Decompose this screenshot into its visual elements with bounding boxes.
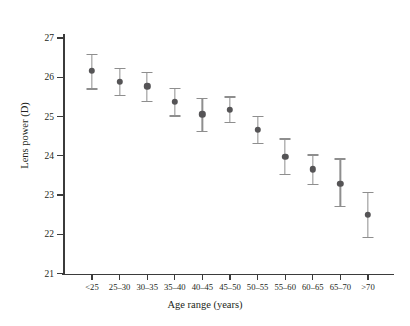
- x-axis-tick: [340, 275, 341, 280]
- error-bar-cap-upper: [252, 116, 263, 117]
- y-axis-tick: [57, 155, 63, 156]
- x-axis-tick-label: 25–30: [109, 282, 130, 292]
- x-axis-tick: [119, 275, 120, 280]
- error-bar-cap-lower: [252, 143, 263, 144]
- x-axis-tick-label: 45–50: [219, 282, 240, 292]
- data-point-marker: [172, 98, 178, 104]
- error-bar-cap-upper: [363, 192, 374, 193]
- y-axis-tick-label: 23: [34, 190, 54, 200]
- error-bar-cap-lower: [197, 131, 208, 132]
- error-bar-cap-lower: [225, 122, 236, 123]
- error-bar-cap-upper: [142, 72, 153, 73]
- error-bar-cap-lower: [307, 184, 318, 185]
- data-point-marker: [282, 153, 288, 159]
- error-bar-cap-lower: [169, 115, 180, 116]
- y-axis-tick: [57, 116, 63, 117]
- error-bar-cap-upper: [87, 54, 98, 55]
- x-axis-tick: [285, 275, 286, 280]
- y-axis-tick-label: 21: [34, 269, 54, 279]
- x-axis-tick: [91, 275, 92, 280]
- y-axis-line: [63, 34, 65, 275]
- error-bar-cap-upper: [307, 154, 318, 155]
- x-axis-tick-label: 65–70: [330, 282, 351, 292]
- y-axis-tick: [57, 234, 63, 235]
- x-axis-tick-label: 60–65: [302, 282, 323, 292]
- data-point-marker: [365, 211, 371, 217]
- data-point-marker: [199, 111, 205, 117]
- x-axis-tick-label: 40–45: [192, 282, 213, 292]
- data-point-marker: [89, 67, 95, 73]
- y-axis-tick-label: 25: [34, 112, 54, 122]
- y-axis-tick-label: 24: [34, 151, 54, 161]
- y-axis-tick: [57, 273, 63, 274]
- x-axis-tick-label: 55–60: [274, 282, 295, 292]
- x-axis-tick-label: 35–40: [164, 282, 185, 292]
- y-axis-tick: [57, 194, 63, 195]
- error-bar-cap-upper: [197, 98, 208, 99]
- error-bar-cap-lower: [363, 237, 374, 238]
- x-axis-tick-label: <25: [85, 282, 98, 292]
- x-axis-tick: [174, 275, 175, 280]
- error-bar-cap-upper: [114, 68, 125, 69]
- x-axis-tick: [367, 275, 368, 280]
- error-bar-cap-lower: [87, 88, 98, 89]
- data-point-marker: [254, 127, 260, 133]
- data-point-marker: [310, 166, 316, 172]
- lens-power-scatter-figure: 21222324252627 <2525–3030–3535–4040–4545…: [0, 0, 410, 326]
- x-axis-tick: [257, 275, 258, 280]
- x-axis-tick: [312, 275, 313, 280]
- error-bar-cap-lower: [335, 206, 346, 207]
- x-axis-tick-label: >70: [361, 282, 374, 292]
- y-axis-tick: [57, 77, 63, 78]
- error-bar-cap-upper: [280, 138, 291, 139]
- data-point-marker: [337, 180, 343, 186]
- data-point-marker: [116, 78, 122, 84]
- data-point-marker: [144, 83, 150, 89]
- error-bar-cap-upper: [169, 88, 180, 89]
- error-bar-cap-lower: [114, 95, 125, 96]
- x-axis-tick-label: 30–35: [136, 282, 157, 292]
- error-bar-cap-upper: [225, 96, 236, 97]
- error-bar-cap-lower: [280, 174, 291, 175]
- error-bar-cap-lower: [142, 101, 153, 102]
- data-point-marker: [227, 107, 233, 113]
- y-axis-tick-label: 27: [34, 33, 54, 43]
- x-axis-tick-label: 50–55: [247, 282, 268, 292]
- x-axis-line: [62, 274, 394, 276]
- y-axis-tick-label: 22: [34, 229, 54, 239]
- x-axis-title: Age range (years): [0, 299, 410, 310]
- x-axis-tick: [202, 275, 203, 280]
- error-bar-cap-upper: [335, 158, 346, 159]
- y-axis-tick-label: 26: [34, 72, 54, 82]
- x-axis-tick: [229, 275, 230, 280]
- y-axis-title: Lens power (D): [19, 56, 30, 216]
- y-axis-tick: [57, 37, 63, 38]
- x-axis-tick: [147, 275, 148, 280]
